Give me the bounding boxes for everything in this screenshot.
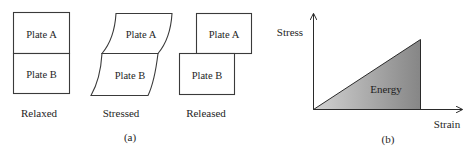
y-axis-label: Stress	[277, 26, 303, 38]
relaxed-plate-b-label: Plate B	[26, 69, 57, 80]
relaxed-plate-a-label: Plate A	[26, 29, 57, 40]
panel-b: Stress Strain Energy (b)	[277, 14, 462, 146]
relaxed-label: Relaxed	[21, 107, 58, 119]
energy-area	[314, 40, 421, 110]
relaxed-state: Plate A Plate B Relaxed	[14, 13, 70, 120]
energy-label: Energy	[370, 83, 402, 95]
stressed-plate-a-label: Plate A	[126, 29, 157, 40]
panel-b-caption: (b)	[382, 133, 395, 146]
released-plate-b-label: Plate B	[192, 70, 223, 81]
panel-a: Plate A Plate B Relaxed Plate A Plate B …	[14, 13, 252, 145]
stressed-plate-b-label: Plate B	[115, 70, 146, 81]
stressed-state: Plate A Plate B Stressed	[91, 14, 172, 120]
released-label: Released	[186, 107, 226, 119]
stressed-label: Stressed	[103, 107, 140, 119]
panel-a-caption: (a)	[124, 131, 137, 144]
diagram-canvas: Plate A Plate B Relaxed Plate A Plate B …	[0, 0, 474, 156]
released-plate-a-label: Plate A	[209, 29, 240, 40]
released-state: Plate A Plate B Released	[180, 14, 252, 120]
x-axis-label: Strain	[434, 118, 461, 130]
